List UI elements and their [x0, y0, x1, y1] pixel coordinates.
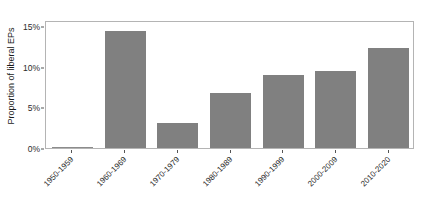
bars-layer: [46, 22, 413, 148]
y-tick-mark: [41, 27, 44, 28]
y-tick-mark: [41, 149, 44, 150]
y-tick-label: 5%: [16, 103, 40, 113]
x-tick-label: 1970-1979: [148, 155, 181, 188]
x-tick-mark: [282, 150, 283, 153]
bar-1990-1999: [263, 75, 304, 148]
x-tick-mark: [124, 150, 125, 153]
bar-2000-2009: [315, 71, 356, 148]
x-tick-mark: [335, 150, 336, 153]
y-tick-mark: [41, 108, 44, 109]
x-tick-mark: [388, 150, 389, 153]
bar-1970-1979: [157, 123, 198, 148]
bar-2010-2020: [368, 48, 409, 148]
y-axis-ticks: 0%5%10%15%: [16, 0, 40, 205]
y-tick-mark: [41, 67, 44, 68]
plot-panel: [45, 21, 414, 149]
bar-1950-1959: [52, 147, 93, 148]
x-tick-label: 1960-1969: [95, 155, 128, 188]
y-tick-label: 0%: [16, 144, 40, 154]
x-tick-label: 2010-2020: [359, 155, 392, 188]
y-tick-label: 10%: [16, 63, 40, 73]
bar-1980-1989: [210, 93, 251, 148]
x-tick-label: 2000-2009: [306, 155, 339, 188]
x-tick-mark: [177, 150, 178, 153]
x-tick-label: 1950-1959: [42, 155, 75, 188]
y-tick-label: 15%: [16, 22, 40, 32]
x-tick-label: 1990-1999: [253, 155, 286, 188]
x-tick-label: 1980-1989: [200, 155, 233, 188]
x-tick-mark: [230, 150, 231, 153]
x-tick-mark: [71, 150, 72, 153]
bar-chart: Proportion of liberal EPs 0%5%10%15% 195…: [0, 0, 425, 205]
bar-1960-1969: [105, 31, 146, 148]
